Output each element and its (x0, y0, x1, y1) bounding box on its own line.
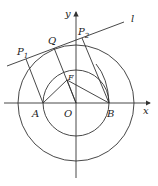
segment-o-f (67, 80, 76, 103)
point-a-label: A (31, 108, 39, 119)
point-p2-label: P2 (77, 26, 90, 40)
point-q-label: Q (48, 35, 56, 46)
point-p1-label: P1 (16, 46, 28, 60)
segment-p2-b (82, 38, 109, 103)
segment-p1-a (26, 59, 43, 103)
geometry-diagram: x y l O A B F Q P1 P2 (0, 0, 158, 186)
point-o-label: O (64, 108, 72, 119)
point-f-label: F (67, 73, 74, 82)
y-axis-label: y (64, 8, 71, 19)
point-b-label: B (106, 108, 114, 119)
line-l-label: l (131, 13, 134, 24)
segment-a-f (43, 80, 67, 103)
x-axis-label: x (143, 105, 149, 116)
